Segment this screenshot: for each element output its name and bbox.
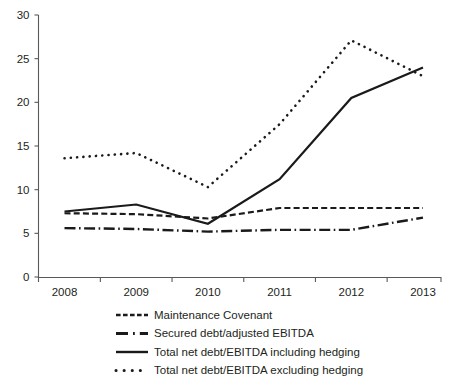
line-chart: 051015202530 200820092010201120122013 Ma… <box>0 0 452 380</box>
x-tick-label: 2011 <box>267 286 292 298</box>
y-tick-label: 30 <box>17 9 30 21</box>
x-axis: 200820092010201120122013 <box>39 277 442 298</box>
x-tick-label: 2012 <box>339 286 365 298</box>
y-tick-label: 5 <box>23 227 29 239</box>
x-tick-label: 2009 <box>123 286 149 298</box>
x-axis-ticks: 200820092010201120122013 <box>39 277 442 298</box>
x-tick-label: 2013 <box>410 286 436 298</box>
legend-item-label: Total net debt/EBITDA including hedging <box>154 346 360 358</box>
x-tick-label: 2008 <box>52 286 78 298</box>
legend-item-label: Maintenance Covenant <box>154 309 273 321</box>
y-axis-ticks: 051015202530 <box>17 9 39 283</box>
series-line-dotted <box>65 40 424 187</box>
y-axis: 051015202530 <box>17 9 39 283</box>
chart-legend: Maintenance CovenantSecured debt/adjuste… <box>116 309 363 377</box>
series-line-dash-dot <box>65 218 424 232</box>
chart-canvas: 051015202530 200820092010201120122013 Ma… <box>0 0 452 380</box>
series-line-dashed <box>65 208 424 218</box>
y-tick-label: 20 <box>17 96 30 108</box>
y-tick-label: 0 <box>23 271 29 283</box>
y-tick-label: 25 <box>17 53 30 65</box>
series-line-solid <box>65 67 424 223</box>
legend-item-label: Total net debt/EBITDA excluding hedging <box>154 364 363 376</box>
y-tick-label: 15 <box>17 140 30 152</box>
x-tick-label: 2010 <box>195 286 221 298</box>
legend-item-label: Secured debt/adjusted EBITDA <box>154 327 314 339</box>
data-series-group <box>65 40 424 231</box>
y-tick-label: 10 <box>17 184 30 196</box>
